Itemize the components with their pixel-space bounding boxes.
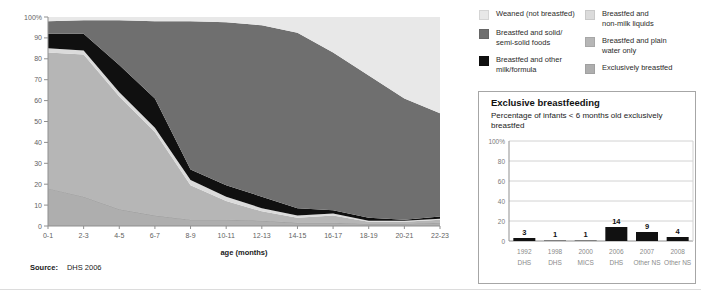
area-series [48, 17, 440, 226]
svg-text:1998: 1998 [548, 248, 563, 255]
legend-item-non-milk-liquids: Breastfed and non-milk liquids [585, 9, 697, 28]
svg-text:40: 40 [498, 198, 506, 205]
svg-text:1992: 1992 [517, 248, 532, 255]
report-canvas: 0102030405060708090100%0-12-34-56-78-910… [0, 0, 701, 298]
bar-2006 [605, 227, 627, 241]
svg-text:2000: 2000 [578, 248, 593, 255]
svg-text:22-23: 22-23 [431, 232, 449, 239]
svg-text:50: 50 [34, 118, 42, 125]
panel-subtitle: Percentage of infants < 6 months old exc… [491, 111, 689, 131]
svg-text:100%: 100% [488, 138, 505, 145]
svg-text:14: 14 [612, 217, 621, 226]
legend-label-weaned: Weaned (not breastfed) [496, 9, 575, 19]
svg-text:0-1: 0-1 [43, 232, 53, 239]
svg-text:2-3: 2-3 [79, 232, 89, 239]
panel-title: Exclusive breastfeeding [491, 97, 600, 108]
svg-text:70: 70 [34, 76, 42, 83]
stacked-area-chart: 0102030405060708090100%0-12-34-56-78-910… [0, 0, 478, 298]
bar-1998 [544, 240, 566, 241]
svg-text:12-13: 12-13 [253, 232, 271, 239]
svg-text:60: 60 [498, 178, 506, 185]
chart-legend: Weaned (not breastfed) Breastfed and sol… [479, 9, 697, 82]
legend-label-non-milk-liquids: Breastfed and non-milk liquids [602, 9, 654, 28]
legend-swatch-weaned-icon [479, 10, 489, 20]
svg-text:4-5: 4-5 [114, 232, 124, 239]
svg-text:100%: 100% [24, 14, 42, 21]
legend-swatch-other-milk-icon [479, 56, 489, 66]
legend-swatch-plain-water-icon [585, 37, 595, 47]
svg-text:2006: 2006 [609, 248, 624, 255]
svg-text:20: 20 [498, 218, 506, 225]
svg-text:40: 40 [34, 139, 42, 146]
source-line: Source:DHS 2006 [30, 263, 102, 272]
svg-text:9: 9 [645, 222, 649, 231]
source-label: Source: [30, 263, 58, 272]
legend-item-weaned: Weaned (not breastfed) [479, 9, 585, 20]
svg-text:6-7: 6-7 [150, 232, 160, 239]
bar-2007 [636, 232, 658, 241]
mini-bar-chart: 020406080100%31992DHS11998DHS12000MICS14… [479, 136, 697, 282]
legend-column-right: Breastfed and non-milk liquids Breastfed… [585, 9, 697, 82]
svg-text:16-17: 16-17 [324, 232, 342, 239]
svg-text:0: 0 [501, 238, 505, 245]
svg-text:Other NS: Other NS [664, 259, 692, 266]
svg-text:DHS: DHS [517, 259, 531, 266]
svg-text:DHS: DHS [548, 259, 562, 266]
legend-swatch-exclusive-icon [585, 64, 595, 74]
svg-text:80: 80 [498, 158, 506, 165]
mini-grid: 020406080100% [488, 138, 693, 245]
legend-column-left: Weaned (not breastfed) Breastfed and sol… [479, 9, 585, 82]
legend-item-other-milk: Breastfed and other milk/formula [479, 55, 585, 74]
svg-text:18-19: 18-19 [360, 232, 378, 239]
svg-text:1: 1 [553, 230, 557, 239]
svg-text:1: 1 [584, 230, 588, 239]
svg-text:90: 90 [34, 34, 42, 41]
svg-text:Other NS: Other NS [633, 259, 661, 266]
svg-text:20-21: 20-21 [395, 232, 413, 239]
svg-text:60: 60 [34, 97, 42, 104]
bar-2000 [575, 240, 597, 241]
svg-text:MICS: MICS [578, 259, 595, 266]
svg-text:2008: 2008 [670, 248, 685, 255]
svg-text:4: 4 [676, 227, 681, 236]
svg-text:age (months): age (months) [220, 248, 268, 257]
legend-swatch-solid-foods-icon [479, 29, 489, 39]
svg-text:80: 80 [34, 55, 42, 62]
bar-2008 [667, 237, 689, 241]
legend-item-solid-foods: Breastfed and solid/ semi-solid foods [479, 28, 585, 47]
svg-text:3: 3 [522, 228, 526, 237]
bottom-divider [0, 289, 701, 290]
svg-text:10: 10 [34, 202, 42, 209]
exclusive-breastfeeding-panel: Exclusive breastfeeding Percentage of in… [478, 91, 696, 284]
legend-label-plain-water: Breastfed and plain water only [602, 36, 667, 55]
svg-text:2007: 2007 [640, 248, 655, 255]
svg-text:0: 0 [38, 223, 42, 230]
legend-item-plain-water: Breastfed and plain water only [585, 36, 697, 55]
svg-text:DHS: DHS [609, 259, 623, 266]
svg-text:20: 20 [34, 181, 42, 188]
legend-item-exclusive: Exclusively breastfed [585, 63, 697, 74]
legend-label-other-milk: Breastfed and other milk/formula [496, 55, 562, 74]
legend-label-solid-foods: Breastfed and solid/ semi-solid foods [496, 28, 562, 47]
svg-text:10-11: 10-11 [217, 232, 234, 239]
legend-swatch-non-milk-liquids-icon [585, 10, 595, 20]
bar-1992 [513, 238, 535, 241]
svg-text:30: 30 [34, 160, 42, 167]
source-value: DHS 2006 [67, 263, 102, 272]
legend-label-exclusive: Exclusively breastfed [602, 63, 672, 73]
svg-text:14-15: 14-15 [289, 232, 307, 239]
svg-text:8-9: 8-9 [185, 232, 195, 239]
